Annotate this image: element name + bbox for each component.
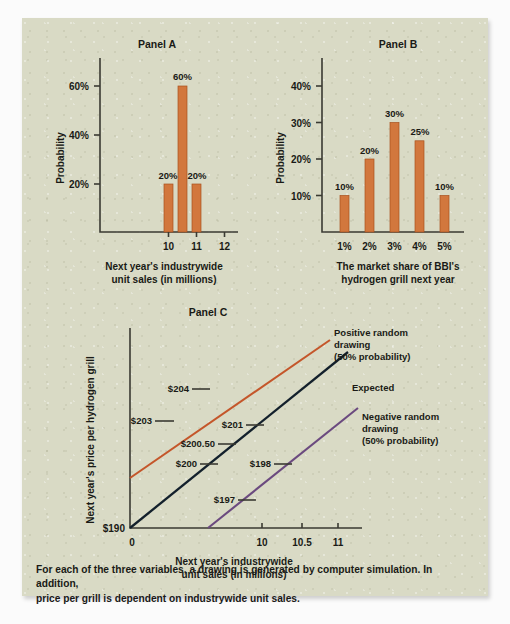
figure-panel-container: Panel A Probability 60% 40% 20% 20% 60% … <box>22 18 488 596</box>
panel-c-label-200: $200 <box>176 458 197 469</box>
panel-b-ylabel: Probability <box>275 132 286 184</box>
panel-a-xtick-12: 12 <box>219 232 231 252</box>
panel-a-chart: Panel A Probability 60% 40% 20% 20% 60% … <box>22 18 262 298</box>
panel-c-line-positive <box>130 340 330 478</box>
svg-text:20%: 20% <box>69 179 89 190</box>
panel-b-title: Panel B <box>379 38 418 50</box>
svg-text:11: 11 <box>191 241 202 252</box>
panel-b-ytick-30: 30% <box>291 118 322 129</box>
panel-a-ylabel: Probability <box>55 132 66 184</box>
panel-a-bar-1 <box>164 184 173 232</box>
panel-b-xtick-1: 1% <box>337 241 352 252</box>
panel-b-bar-2 <box>365 159 374 232</box>
panel-c-xtick-105: 10.5 <box>292 523 312 548</box>
svg-text:Expected: Expected <box>352 382 394 393</box>
panel-b-xtick-3: 3% <box>387 241 402 252</box>
panel-c-xtick-0: 0 <box>129 537 135 548</box>
panel-a-xlabel-line1: Next year's industrywide <box>105 261 223 272</box>
panel-c-ylabel: Next year's price per hydrogen grill <box>85 356 96 524</box>
panel-c-label-198: $198 <box>250 458 271 469</box>
svg-text:drawing: drawing <box>362 423 399 434</box>
panel-c-line-expected <box>130 352 348 528</box>
panel-b-label-2: 20% <box>360 145 380 156</box>
panel-a-xlabel-line2: unit sales (in millions) <box>111 274 216 285</box>
panel-b-label-4: 25% <box>410 126 430 137</box>
panel-b-label-5: 10% <box>435 181 455 192</box>
panel-b-ytick-20: 20% <box>291 154 322 165</box>
panel-c-label-20050: $200.50 <box>181 438 215 449</box>
svg-text:40%: 40% <box>69 130 89 141</box>
panel-b-bar-4 <box>415 141 424 232</box>
svg-text:10: 10 <box>256 537 268 548</box>
panel-b-label-1: 10% <box>335 181 355 192</box>
svg-text:Positive random: Positive random <box>334 327 408 338</box>
panel-a-label-1: 20% <box>158 170 178 181</box>
svg-text:10%: 10% <box>291 191 311 202</box>
svg-text:0: 0 <box>129 537 135 548</box>
panel-b-xlabel-line1: The market share of BBI's <box>337 261 460 272</box>
svg-text:(50% probability): (50% probability) <box>334 351 411 362</box>
svg-text:(50% probability): (50% probability) <box>362 435 439 446</box>
svg-text:60%: 60% <box>69 81 89 92</box>
panel-c-legend-expected: Expected <box>352 382 394 393</box>
panel-c-label-203: $203 <box>131 415 152 426</box>
panel-c-label-204: $204 <box>168 383 190 394</box>
panel-b-bar-3 <box>390 123 399 233</box>
panel-a-bar-3 <box>192 184 201 232</box>
panel-c-legend-negative: Negative random drawing (50% probability… <box>362 411 439 446</box>
panel-a-ytick-20: 20% <box>69 179 100 190</box>
panel-b-ytick-10: 10% <box>291 191 322 202</box>
panel-c-title: Panel C <box>189 306 228 318</box>
panel-b-bar-1 <box>340 196 349 233</box>
panel-b-xtick-2: 2% <box>362 241 377 252</box>
svg-text:10.5: 10.5 <box>292 537 312 548</box>
panel-c-legend-positive: Positive random drawing (50% probability… <box>334 327 411 362</box>
svg-text:Negative random: Negative random <box>362 411 439 422</box>
panel-b-bar-5 <box>440 196 449 233</box>
panel-b-xlabel-line2: hydrogen grill next year <box>341 274 454 285</box>
panel-b-chart: Panel B Probability 40% 30% 20% 10% 10% … <box>248 18 488 298</box>
panel-c-ytick-190: $190 <box>103 523 126 534</box>
panel-c-chart: Panel C Next year's price per hydrogen g… <box>22 292 488 582</box>
panel-c-xtick-10: 10 <box>256 523 268 548</box>
panel-a-label-2: 60% <box>173 71 193 82</box>
figure-caption-line1: For each of the three variables, a drawi… <box>36 563 476 592</box>
panel-b-label-3: 30% <box>385 108 405 119</box>
svg-text:40%: 40% <box>291 81 311 92</box>
panel-a-xtick-10: 10 <box>163 232 175 252</box>
figure-caption-line2: price per grill is dependent on industry… <box>36 592 476 606</box>
figure-caption: For each of the three variables, a drawi… <box>36 563 476 606</box>
panel-b-xtick-5: 5% <box>437 241 452 252</box>
panel-a-xtick-11: 11 <box>191 232 202 252</box>
panel-b-xtick-4: 4% <box>412 241 427 252</box>
panel-a-ytick-60: 60% <box>69 81 100 92</box>
svg-text:10: 10 <box>163 241 175 252</box>
panel-a-title: Panel A <box>138 38 177 50</box>
panel-a-label-3: 20% <box>187 170 207 181</box>
svg-text:20%: 20% <box>291 154 311 165</box>
svg-text:drawing: drawing <box>334 339 371 350</box>
panel-b-ytick-40: 40% <box>291 81 322 92</box>
panel-c-xtick-11: 11 <box>333 523 344 548</box>
svg-text:11: 11 <box>333 537 344 548</box>
panel-c-label-201: $201 <box>222 419 244 430</box>
panel-a-bar-2 <box>178 86 187 232</box>
panel-a-ytick-40: 40% <box>69 130 100 141</box>
panel-c-label-197: $197 <box>214 494 235 505</box>
svg-text:12: 12 <box>219 241 231 252</box>
svg-text:30%: 30% <box>291 118 311 129</box>
